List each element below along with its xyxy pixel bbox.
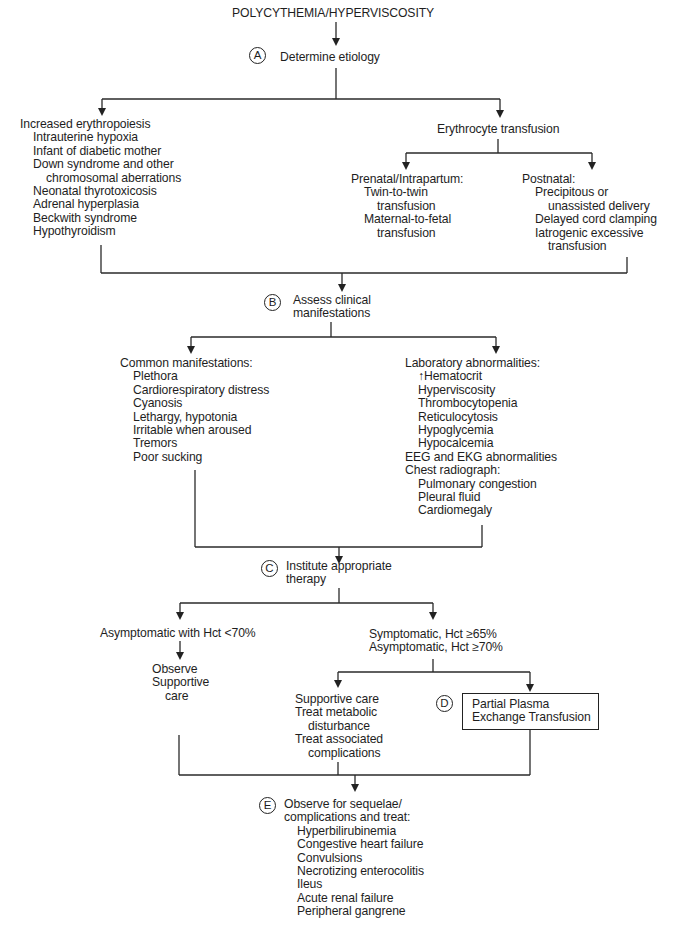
list-item: Supportive	[152, 676, 209, 689]
step-e-marker: E	[259, 797, 276, 814]
chart-title: POLYCYTHEMIA/HYPERVISCOSITY	[232, 7, 434, 20]
group-heading: Chest radiograph:	[405, 464, 557, 477]
list-item: unassisted delivery	[522, 200, 657, 213]
label-line: Symptomatic, Hct ≥65%	[369, 628, 503, 641]
list-item: transfusion	[522, 240, 657, 253]
label-line: Assess clinical	[293, 294, 371, 307]
list-item: Cardiomegaly	[405, 504, 557, 517]
list-item: Convulsions	[284, 852, 424, 865]
label-line: therapy	[286, 573, 392, 586]
step-b-label: Assess clinical manifestations	[293, 294, 371, 321]
list-item: Maternal-to-fetal	[351, 213, 463, 226]
list-item: Supportive care	[295, 693, 383, 706]
step-d-marker: D	[436, 695, 453, 712]
list-item: Pulmonary congestion	[405, 478, 557, 491]
list-item: Delayed cord clamping	[522, 213, 657, 226]
group-heading: Common manifestations:	[120, 357, 269, 370]
label-line: complications and treat:	[284, 811, 424, 824]
label-line: Observe for sequelae/	[284, 798, 424, 811]
increased-erythropoiesis-group: Increased erythropoiesis Intrauterine hy…	[20, 118, 181, 239]
step-c-marker: C	[261, 560, 278, 577]
step-a-marker: A	[249, 47, 266, 64]
list-item: Twin-to-twin	[351, 186, 463, 199]
list-item: Ileus	[284, 878, 424, 891]
symptomatic-actions: Supportive care Treat metabolic disturba…	[295, 693, 383, 760]
group-heading: Laboratory abnormalities:	[405, 357, 557, 370]
list-item: Precipitous or	[522, 186, 657, 199]
list-item: Hyperbilirubinemia	[284, 825, 424, 838]
erythrocyte-transfusion-heading: Erythrocyte transfusion	[437, 123, 559, 136]
list-item: EEG and EKG abnormalities	[405, 451, 557, 464]
group-heading: Prenatal/Intrapartum:	[351, 173, 463, 186]
asymptomatic-actions: Observe Supportive care	[152, 663, 209, 703]
group-heading: Increased erythropoiesis	[20, 118, 181, 131]
list-item: Necrotizing enterocolitis	[284, 865, 424, 878]
list-item: Plethora	[120, 370, 269, 383]
label-line: Institute appropriate	[286, 560, 392, 573]
list-item: Adrenal hyperplasia	[20, 198, 181, 211]
list-item: ↑Hematocrit	[405, 370, 557, 383]
list-item: Irritable when aroused	[120, 424, 269, 437]
list-item: Intrauterine hypoxia	[20, 131, 181, 144]
list-item: Beckwith syndrome	[20, 212, 181, 225]
list-item: Observe	[152, 663, 209, 676]
list-item: Hypothyroidism	[20, 225, 181, 238]
label-line: Partial Plasma	[472, 698, 598, 711]
prenatal-group: Prenatal/Intrapartum: Twin-to-twin trans…	[351, 173, 463, 240]
list-item: transfusion	[351, 227, 463, 240]
list-item: Cyanosis	[120, 397, 269, 410]
common-manifestations-group: Common manifestations: Plethora Cardiore…	[120, 357, 269, 464]
step-b-marker: B	[264, 294, 281, 311]
list-item: complications	[295, 747, 383, 760]
list-item: Treat metabolic	[295, 706, 383, 719]
step-a-label: Determine etiology	[280, 51, 380, 64]
list-item: Tremors	[120, 437, 269, 450]
list-item: chromosomal aberrations	[20, 172, 181, 185]
laboratory-abnormalities-group: Laboratory abnormalities: ↑Hematocrit Hy…	[405, 357, 557, 518]
list-item: disturbance	[295, 720, 383, 733]
list-item: Infant of diabetic mother	[20, 145, 181, 158]
list-item: Hyperviscosity	[405, 384, 557, 397]
list-item: Peripheral gangrene	[284, 905, 424, 918]
label-line: manifestations	[293, 307, 371, 320]
list-item: Hypocalcemia	[405, 437, 557, 450]
step-d-box: Partial Plasma Exchange Transfusion	[462, 693, 599, 730]
list-item: Cardiorespiratory distress	[120, 384, 269, 397]
list-item: Lethargy, hypotonia	[120, 411, 269, 424]
list-item: Congestive heart failure	[284, 838, 424, 851]
step-e-group: Observe for sequelae/ complications and …	[284, 798, 424, 919]
list-item: transfusion	[351, 200, 463, 213]
postnatal-group: Postnatal: Precipitous or unassisted del…	[522, 173, 657, 253]
step-c-label: Institute appropriate therapy	[286, 560, 392, 587]
symptomatic-condition: Symptomatic, Hct ≥65% Asymptomatic, Hct …	[369, 628, 503, 655]
list-item: Thrombocytopenia	[405, 397, 557, 410]
list-item: Acute renal failure	[284, 892, 424, 905]
list-item: Poor sucking	[120, 451, 269, 464]
asymptomatic-condition: Asymptomatic with Hct <70%	[100, 627, 256, 640]
flowchart: POLYCYTHEMIA/HYPERVISCOSITY A Determine …	[0, 0, 679, 937]
label-line: Exchange Transfusion	[472, 711, 598, 724]
group-heading: Postnatal:	[522, 173, 657, 186]
list-item: Iatrogenic excessive	[522, 227, 657, 240]
list-item: Neonatal thyrotoxicosis	[20, 185, 181, 198]
label-line: Asymptomatic, Hct ≥70%	[369, 641, 503, 654]
list-item: Pleural fluid	[405, 491, 557, 504]
list-item: Down syndrome and other	[20, 158, 181, 171]
list-item: Hypoglycemia	[405, 424, 557, 437]
list-item: Treat associated	[295, 733, 383, 746]
list-item: care	[152, 690, 209, 703]
list-item: Reticulocytosis	[405, 411, 557, 424]
